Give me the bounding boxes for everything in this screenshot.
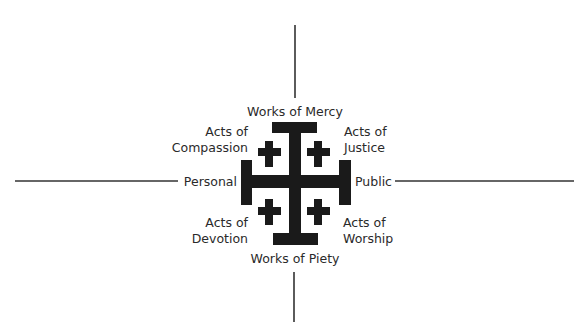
label-line-2: Justice	[344, 140, 387, 156]
label-line-1: Acts of	[343, 215, 393, 231]
jerusalem-cross-icon	[241, 122, 351, 245]
label-line-2: Devotion	[160, 231, 248, 247]
label-line-2: Compassion	[160, 140, 248, 156]
small-cross-top-right-icon	[307, 141, 330, 167]
label-line-1: Acts of	[344, 124, 387, 140]
small-cross-bottom-left-icon	[258, 199, 281, 225]
label-works-of-mercy: Works of Mercy	[245, 104, 345, 120]
small-cross-top-left-icon	[258, 141, 281, 167]
label-line-1: Acts of	[160, 215, 248, 231]
label-acts-of-compassion: Acts of Compassion	[160, 124, 248, 156]
label-public: Public	[355, 174, 392, 190]
label-works-of-piety: Works of Piety	[245, 251, 345, 267]
small-cross-bottom-right-icon	[307, 199, 330, 225]
diagram-canvas	[0, 0, 585, 322]
label-acts-of-worship: Acts of Worship	[343, 215, 393, 247]
label-personal: Personal	[150, 174, 237, 190]
label-acts-of-justice: Acts of Justice	[344, 124, 387, 156]
label-acts-of-devotion: Acts of Devotion	[160, 215, 248, 247]
label-line-1: Acts of	[160, 124, 248, 140]
label-line-2: Worship	[343, 231, 393, 247]
